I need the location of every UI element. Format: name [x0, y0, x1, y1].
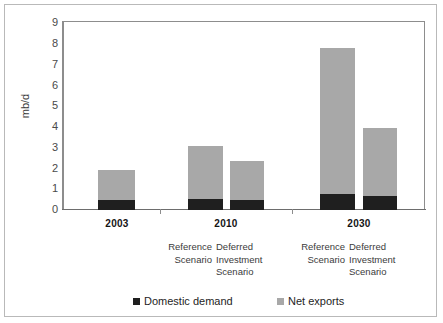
bar-segment-net-exports [363, 128, 397, 196]
scenario-label-line3: Scenario [216, 266, 278, 279]
bar-segment-net-exports [230, 161, 264, 200]
bar-2010-reference[interactable] [188, 146, 223, 210]
bar-segment-domestic-demand [363, 196, 397, 210]
legend-label: Net exports [288, 295, 344, 307]
scenario-label-line2: Investment [216, 254, 278, 267]
scenario-label-line2: Scenario [293, 254, 345, 267]
bar-segment-domestic-demand [230, 200, 264, 210]
legend-label: Domestic demand [144, 295, 233, 307]
bar-2010-deferred-investment[interactable] [230, 161, 264, 210]
scenario-label-line1: Reference [160, 241, 212, 254]
x-axis-tick-separator-2 [292, 209, 293, 214]
bar-segment-domestic-demand [320, 194, 355, 210]
x-axis-group-label-2003: 2003 [87, 218, 147, 229]
bar-segment-domestic-demand [188, 199, 223, 210]
x-axis-group-label-2030: 2030 [329, 218, 389, 229]
bar-2003[interactable] [98, 170, 135, 210]
scenario-label-2010-deferred-investment: Deferred Investment Scenario [216, 241, 278, 279]
x-axis-tick-separator-1 [160, 209, 161, 214]
bar-segment-net-exports [320, 48, 355, 194]
bar-segment-net-exports [98, 170, 135, 200]
chart-legend: Domestic demand Net exports [0, 295, 443, 311]
legend-item-net-exports[interactable]: Net exports [277, 295, 344, 307]
legend-item-domestic-demand[interactable]: Domestic demand [133, 295, 233, 307]
bar-2030-deferred-investment[interactable] [363, 128, 397, 210]
legend-swatch-gray-icon [277, 298, 284, 305]
legend-swatch-dark-icon [133, 298, 140, 305]
scenario-label-line1: Deferred [349, 241, 411, 254]
scenario-label-line1: Reference [293, 241, 345, 254]
scenario-label-2030-deferred-investment: Deferred Investment Scenario [349, 241, 411, 279]
scenario-label-2010-reference: Reference Scenario [160, 241, 212, 266]
scenario-label-line3: Scenario [349, 266, 411, 279]
scenario-label-line2: Scenario [160, 254, 212, 267]
scenario-label-line1: Deferred [216, 241, 278, 254]
x-axis-group-label-2010: 2010 [196, 218, 256, 229]
bar-segment-net-exports [188, 146, 223, 199]
scenario-label-line2: Investment [349, 254, 411, 267]
chart-figure: mb/d 9 8 7 6 5 4 3 2 1 0 [0, 0, 443, 323]
bar-2030-reference[interactable] [320, 48, 355, 210]
bar-segment-domestic-demand [98, 200, 135, 210]
bars-layer [0, 0, 443, 210]
scenario-label-2030-reference: Reference Scenario [293, 241, 345, 266]
